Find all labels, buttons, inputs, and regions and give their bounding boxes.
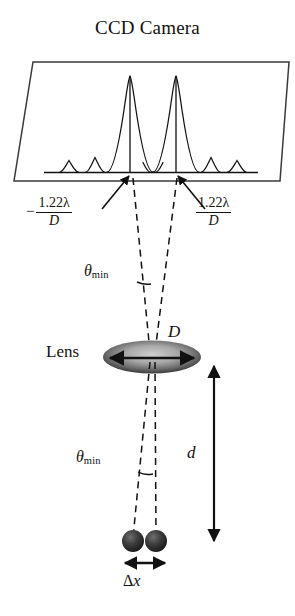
fraction-right: 1.22λ D <box>196 196 231 228</box>
lower-ray-left <box>133 362 150 538</box>
minus-sign: − <box>26 204 34 221</box>
lower-ray-bundle <box>133 362 156 538</box>
fraction-right-denominator: D <box>196 212 231 229</box>
left-minimum-formula: − 1.22λ D <box>26 196 72 228</box>
fraction-right-numerator: 1.22λ <box>196 196 231 212</box>
lens-diameter-label: D <box>168 322 180 342</box>
right-minimum-formula: 1.22λ D <box>196 196 231 228</box>
theta-subscript-upper: min <box>92 269 109 280</box>
theta-symbol-lower: θ <box>76 448 84 465</box>
theta-min-label-upper: θmin <box>84 262 109 280</box>
optics-diagram-svg <box>0 0 295 616</box>
x-symbol: x <box>133 572 140 589</box>
point-source-left <box>122 530 144 552</box>
separation-label: Δx <box>123 572 140 590</box>
theta-min-label-lower: θmin <box>76 448 101 466</box>
object-point-sources <box>122 530 167 552</box>
airy-pattern-source-1 <box>60 76 163 172</box>
ccd-plane-outline <box>14 62 289 181</box>
theta-min-arc-lower <box>138 472 153 475</box>
theta-subscript-lower: min <box>84 455 101 466</box>
ccd-camera-plane <box>14 62 289 181</box>
figure-canvas: CCD Camera Lens − 1.22λ D 1.22λ D θmin θ… <box>0 0 295 616</box>
upper-ray-left <box>133 178 150 352</box>
theta-symbol-upper: θ <box>84 262 92 279</box>
point-source-right <box>145 530 167 552</box>
fraction-left-denominator: D <box>36 212 71 229</box>
airy-pattern-source-2 <box>143 76 246 172</box>
figure-title: CCD Camera <box>0 18 295 37</box>
fraction-left: 1.22λ D <box>36 196 71 228</box>
theta-min-arc-upper <box>137 282 151 284</box>
lower-ray-right <box>155 362 156 538</box>
lens-label: Lens <box>46 343 79 360</box>
lens-element <box>103 341 201 374</box>
object-distance-label: d <box>187 443 196 463</box>
delta-symbol: Δ <box>123 572 133 589</box>
fraction-left-numerator: 1.22λ <box>36 196 71 212</box>
